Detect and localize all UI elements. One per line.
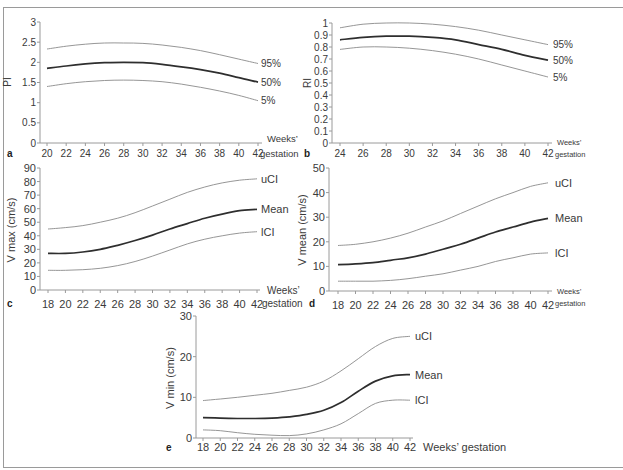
x-tick-label: 28 [129,298,141,310]
x-axis-label: gestation [555,299,585,308]
y-axis-label: V max (cm/s) [5,198,17,263]
x-tick-label: 30 [404,148,416,159]
x-tick-label: 22 [77,298,89,310]
x-tick-label: 26 [112,298,124,310]
series-line-95pct [47,43,258,64]
x-tick-label: 32 [427,148,439,159]
y-tick-label: 0.4 [314,90,328,101]
y-tick-label: 1 [322,18,328,29]
x-tick-label: 26 [266,441,278,453]
y-tick-label: 1 [30,97,36,108]
x-tick-label: 42 [542,148,554,159]
x-axis-label: gestation [260,148,299,159]
series-line-5pct [47,80,258,101]
x-tick-label: 20 [41,148,53,159]
x-tick-label: 18 [197,441,209,453]
series-line-mean [48,209,257,253]
y-tick-label: 2 [30,57,36,68]
x-tick-label: 22 [231,441,243,453]
x-tick-label: 22 [61,148,73,159]
y-tick-label: 30 [313,211,325,223]
series-line-lci [338,253,548,281]
panel-a-pi-chart: 00.511.522.5320222426283032343638404295%… [2,17,299,159]
series-label: Mean [415,369,443,381]
y-tick-label: 30 [180,310,192,322]
panel-letter: a [7,148,13,159]
x-tick-label: 34 [181,298,193,310]
y-axis-label: V min (cm/s) [164,347,176,409]
y-tick-label: 0.9 [314,30,328,41]
series-label: 95% [553,39,573,50]
x-tick-label: 28 [419,299,431,311]
x-tick-label: 32 [164,298,176,310]
series-label: lCI [261,226,274,238]
x-axis-label: Weeks’ gestation [423,441,506,453]
y-tick-label: 50 [313,162,325,174]
panel-b-ri-chart: 00.10.20.30.40.50.60.70.80.9124262830323… [302,18,585,159]
x-tick-label: 38 [216,298,228,310]
x-tick-label: 36 [352,441,364,453]
panel-letter: e [166,442,172,453]
x-tick-label: 32 [157,148,169,159]
series-line-uci [203,336,410,400]
series-line-lci [48,232,257,271]
x-tick-label: 34 [450,148,462,159]
series-label: 50% [261,77,281,88]
x-tick-label: 40 [519,148,531,159]
y-tick-label: 90 [24,162,36,174]
x-axis-label: Weeks’ [267,285,300,296]
y-tick-label: 0 [186,432,192,444]
x-tick-label: 24 [94,298,106,310]
x-tick-label: 38 [214,148,226,159]
x-axis-label: Weeks’ [557,287,582,296]
y-tick-label: 1.5 [22,77,36,88]
y-tick-label: 70 [24,189,36,201]
y-tick-label: 0.2 [314,114,328,125]
x-tick-label: 42 [404,441,416,453]
panel-e-vmin-chart: 010203018202224262830323436384042uCIMean… [164,310,506,453]
series-label: 5% [553,72,568,83]
x-tick-label: 40 [387,441,399,453]
x-tick-label: 34 [335,441,347,453]
x-tick-label: 30 [437,299,449,311]
y-tick-label: 10 [313,260,325,272]
x-tick-label: 32 [318,441,330,453]
y-tick-label: 40 [24,230,36,242]
y-tick-label: 0 [30,284,36,296]
series-label: Mean [261,203,289,215]
series-label: uCI [555,177,572,189]
series-line-mean [203,375,410,419]
series-label: 5% [261,95,276,106]
series-line-uci [48,179,257,229]
x-axis-label: Weeks’ [267,133,298,144]
y-tick-label: 0.3 [314,102,328,113]
x-tick-label: 30 [146,298,158,310]
y-tick-label: 2.5 [22,37,36,48]
x-tick-label: 40 [233,148,245,159]
x-tick-label: 22 [367,299,379,311]
x-tick-label: 26 [99,148,111,159]
series-label: Mean [555,212,583,224]
x-tick-label: 24 [334,148,346,159]
series-line-5pct [340,47,548,77]
y-tick-label: 0.7 [314,54,328,65]
y-tick-label: 80 [24,176,36,188]
x-tick-label: 24 [80,148,92,159]
x-tick-label: 36 [473,148,485,159]
y-tick-label: 20 [180,351,192,363]
x-tick-label: 26 [402,299,414,311]
x-tick-label: 30 [300,441,312,453]
panel-d-vmean-chart: 0102030405018202224262830323436384042uCI… [296,162,585,311]
series-line-mean [338,218,548,264]
y-tick-label: 10 [180,391,192,403]
x-tick-label: 36 [195,148,207,159]
series-label: lCI [415,394,428,406]
x-tick-label: 38 [507,299,519,311]
y-tick-label: 0.8 [314,42,328,53]
x-tick-label: 40 [233,298,245,310]
series-label: 95% [261,58,281,69]
series-label: lCI [555,247,568,259]
x-tick-label: 24 [384,299,396,311]
